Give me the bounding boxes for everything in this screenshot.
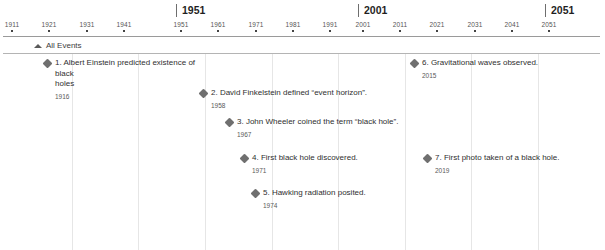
event-year: 1971 (252, 166, 358, 175)
event-year: 1967 (237, 130, 398, 139)
axis-tick[interactable]: 2021 (420, 21, 454, 32)
axis-tick-label: 1911 (0, 21, 29, 29)
axis-major-label: 2051 (545, 4, 574, 17)
diamond-marker-icon (225, 118, 235, 128)
event-text: 4. First black hole discovered. 1971 (252, 153, 358, 175)
axis-tick-label: 1981 (276, 21, 310, 29)
axis-tick-dot-icon (48, 30, 50, 32)
event-text: 2. David Finkelstein defined “event hori… (211, 88, 367, 110)
axis-tick[interactable]: 1961 (201, 21, 235, 32)
axis-tick-dot-icon (217, 30, 219, 32)
axis-tick-dot-icon (436, 30, 438, 32)
axis-tick-dot-icon (329, 30, 331, 32)
event-year: 2015 (422, 71, 538, 80)
axis-baseline-divider (3, 36, 600, 37)
axis-tick[interactable]: 1931 (70, 21, 104, 32)
axis-tick-dot-icon (362, 30, 364, 32)
axis-tick-dot-icon (123, 30, 125, 32)
axis-tick[interactable]: 2051 (532, 21, 566, 32)
diamond-marker-icon (240, 154, 250, 164)
axis-tick-label: 2031 (458, 21, 492, 29)
axis-tick[interactable]: 1921 (32, 21, 66, 32)
axis-tick[interactable]: 1971 (239, 21, 273, 32)
axis-tick-label: 1991 (313, 21, 347, 29)
axis-tick-dot-icon (86, 30, 88, 32)
events-plot-area: 1. Albert Einstein predicted existence o… (0, 54, 605, 250)
axis-tick[interactable]: 2041 (495, 21, 529, 32)
event-title: 3. John Wheeler coined the term “black h… (237, 117, 398, 128)
diamond-marker-icon (199, 89, 209, 99)
axis-tick[interactable]: 2031 (458, 21, 492, 32)
axis-tick-label: 1921 (32, 21, 66, 29)
diamond-marker-icon (43, 59, 53, 69)
axis-tick[interactable]: 1951 (164, 21, 198, 32)
event-title: 6. Gravitational waves observed. (422, 58, 538, 69)
all-events-toggle[interactable]: All Events (34, 39, 82, 53)
timeline-event[interactable]: 7. First photo taken of a black hole. 20… (424, 153, 560, 175)
event-year: 1916 (55, 92, 215, 101)
axis-tick-label: 2041 (495, 21, 529, 29)
axis-major-label: 2001 (358, 4, 387, 17)
event-text: 3. John Wheeler coined the term “black h… (237, 117, 398, 139)
event-title: 4. First black hole discovered. (252, 153, 358, 164)
axis-tick-dot-icon (292, 30, 294, 32)
timeline-event[interactable]: 1. Albert Einstein predicted existence o… (44, 58, 215, 101)
axis-tick[interactable]: 1991 (313, 21, 347, 32)
axis-tick-dot-icon (255, 30, 257, 32)
diamond-marker-icon (410, 59, 420, 69)
axis-tick-label: 1971 (239, 21, 273, 29)
axis-tick[interactable]: 2001 (346, 21, 380, 32)
axis-major-label: 1951 (176, 4, 205, 17)
axis-tick-label: 2011 (383, 21, 417, 29)
all-events-label: All Events (46, 41, 82, 51)
axis-tick-label: 1941 (107, 21, 141, 29)
axis-tick[interactable]: 1981 (276, 21, 310, 32)
timeline-widget: 1951 2001 2051 1911 1921 1931 1941 1951 … (0, 0, 605, 250)
timeline-event[interactable]: 2. David Finkelstein defined “event hori… (200, 88, 367, 110)
axis-tick-label: 2051 (532, 21, 566, 29)
diamond-marker-icon (423, 154, 433, 164)
axis-tick[interactable]: 2011 (383, 21, 417, 32)
event-title: 2. David Finkelstein defined “event hori… (211, 88, 367, 99)
timeline-event[interactable]: 4. First black hole discovered. 1971 (241, 153, 358, 175)
axis-tick-dot-icon (548, 30, 550, 32)
event-year: 1974 (263, 201, 366, 210)
gridline (471, 54, 472, 250)
timeline-event[interactable]: 6. Gravitational waves observed. 2015 (411, 58, 538, 80)
gridline (272, 54, 273, 250)
axis-tick-dot-icon (180, 30, 182, 32)
all-events-group-row: All Events (0, 39, 605, 53)
axis-tick-dot-icon (11, 30, 13, 32)
axis-tick[interactable]: 1911 (0, 21, 29, 32)
event-text: 5. Hawking radiation posited. 1974 (263, 188, 366, 210)
axis-tick-dot-icon (511, 30, 513, 32)
axis-tick-dot-icon (474, 30, 476, 32)
axis-tick-label: 1931 (70, 21, 104, 29)
gridline (405, 54, 406, 250)
axis-tick-dot-icon (399, 30, 401, 32)
axis-tick[interactable]: 1941 (107, 21, 141, 32)
event-year: 1958 (211, 101, 367, 110)
gridline (538, 54, 539, 250)
event-title: 7. First photo taken of a black hole. (435, 153, 560, 164)
event-title: 5. Hawking radiation posited. (263, 188, 366, 199)
event-text: 7. First photo taken of a black hole. 20… (435, 153, 560, 175)
diamond-marker-icon (251, 189, 261, 199)
timeline-axis: 1951 2001 2051 1911 1921 1931 1941 1951 … (0, 0, 605, 36)
caret-up-icon (34, 44, 42, 48)
axis-tick-label: 2001 (346, 21, 380, 29)
event-text: 1. Albert Einstein predicted existence o… (55, 58, 215, 101)
timeline-event[interactable]: 3. John Wheeler coined the term “black h… (226, 117, 398, 139)
event-text: 6. Gravitational waves observed. 2015 (422, 58, 538, 80)
event-title: 1. Albert Einstein predicted existence o… (55, 58, 215, 90)
gridline (338, 54, 339, 250)
axis-tick-label: 1951 (164, 21, 198, 29)
axis-tick-label: 2021 (420, 21, 454, 29)
event-year: 2019 (435, 166, 560, 175)
timeline-event[interactable]: 5. Hawking radiation posited. 1974 (252, 188, 366, 210)
axis-tick-label: 1961 (201, 21, 235, 29)
